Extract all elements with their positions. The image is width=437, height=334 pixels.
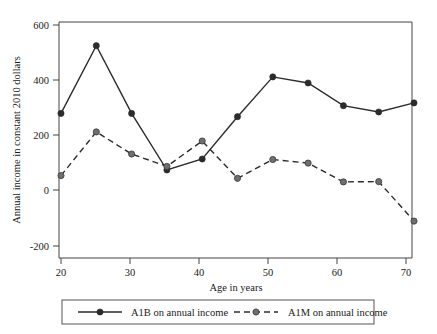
data-point [270, 74, 276, 80]
y-tick-label-200: 200 [33, 130, 49, 141]
x-tick-label-40: 40 [194, 267, 205, 278]
series-a1m [58, 129, 417, 224]
y-tick-label-600: 600 [33, 20, 49, 31]
data-point [305, 80, 311, 86]
data-point [376, 179, 382, 185]
x-tick-label-50: 50 [263, 267, 274, 278]
data-point [234, 175, 240, 181]
plot-frame [59, 22, 412, 258]
chart-figure: 600 400 200 0 -200 Annual income in cons… [0, 0, 437, 334]
data-point [58, 110, 64, 116]
series-a1b [58, 43, 417, 173]
legend: A1B on annual income A1M on annual incom… [62, 300, 388, 324]
legend-marker-solid [97, 309, 103, 315]
legend-label-a1m: A1M on annual income [288, 307, 388, 318]
series-a1b-markers [58, 43, 417, 173]
data-point [340, 179, 346, 185]
y-tick-label-minus200: -200 [30, 241, 49, 252]
data-point [305, 160, 311, 166]
data-point [93, 43, 99, 49]
x-axis: 20 30 40 50 60 70 Age in years [56, 258, 412, 293]
data-point [234, 114, 240, 120]
y-tick-group [53, 25, 59, 246]
y-tick-label-0: 0 [44, 185, 49, 196]
data-point [199, 156, 205, 162]
x-tick-label-20: 20 [56, 267, 67, 278]
data-point [411, 218, 417, 224]
series-a1b-line [61, 46, 414, 170]
data-point [58, 173, 64, 179]
x-tick-label-30: 30 [125, 267, 136, 278]
chart-svg: 600 400 200 0 -200 Annual income in cons… [0, 0, 437, 334]
data-point [270, 156, 276, 162]
x-tick-label-70: 70 [401, 267, 412, 278]
series-a1m-markers [58, 129, 417, 224]
data-point [129, 110, 135, 116]
x-tick-group [61, 258, 406, 264]
data-point [164, 163, 170, 169]
data-point [376, 109, 382, 115]
data-point [199, 138, 205, 144]
legend-label-a1b: A1B on annual income [131, 307, 228, 318]
data-point [411, 100, 417, 106]
data-point [340, 103, 346, 109]
legend-marker-dashed [253, 309, 259, 315]
x-tick-label-60: 60 [332, 267, 343, 278]
y-axis-title: Annual income in constant 2010 dollars [11, 56, 22, 224]
y-axis: 600 400 200 0 -200 Annual income in cons… [11, 20, 59, 252]
data-point [129, 151, 135, 157]
x-axis-title: Age in years [209, 282, 262, 293]
data-point [93, 129, 99, 135]
y-tick-label-400: 400 [33, 75, 49, 86]
